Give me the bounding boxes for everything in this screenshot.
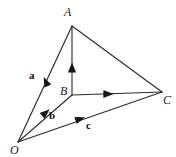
vector-diagram-figure: A B C O a b c (0, 0, 176, 157)
vector-c-line (18, 92, 162, 142)
edge-b-to-c-arrowhead (103, 90, 113, 98)
triangle-abc-group (68, 26, 162, 98)
vector-label-c: c (86, 120, 91, 131)
edge-b-to-a-arrowhead (68, 63, 76, 73)
point-label-b: B (60, 85, 67, 97)
point-label-o: O (10, 144, 19, 156)
vector-a-arrowhead (40, 75, 51, 87)
diagram-canvas (0, 0, 176, 157)
point-label-a: A (64, 6, 71, 18)
edge-a-to-c-line (72, 26, 162, 92)
vector-b-line (18, 95, 72, 142)
edge-b-to-c-line (72, 92, 162, 95)
vector-label-a: a (29, 70, 35, 81)
point-label-c: C (163, 94, 171, 106)
vector-label-b: b (49, 110, 55, 121)
